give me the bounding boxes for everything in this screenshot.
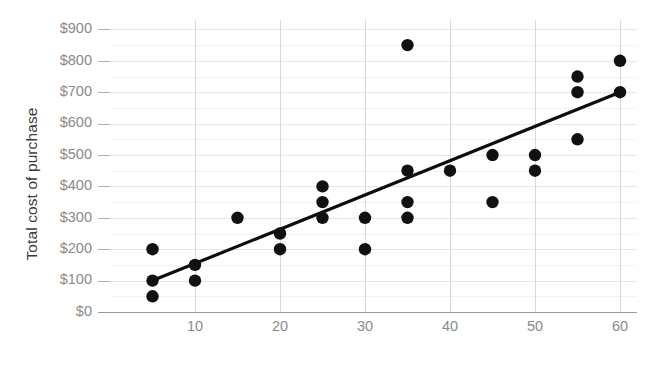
x-tick-label: 20	[272, 318, 288, 334]
data-point	[316, 212, 328, 224]
data-point	[316, 180, 328, 192]
data-point	[231, 212, 243, 224]
data-point	[359, 243, 371, 255]
data-point	[571, 133, 583, 145]
x-tick-label: 40	[442, 318, 458, 334]
data-point	[529, 149, 541, 161]
y-tick-label: $700	[60, 83, 92, 99]
y-tick-marks	[98, 30, 110, 282]
y-tick-label: $600	[60, 114, 92, 130]
data-point	[401, 212, 413, 224]
data-point	[486, 196, 498, 208]
data-point	[146, 290, 158, 302]
data-point	[571, 70, 583, 82]
data-point	[401, 165, 413, 177]
y-tick-label: $200	[60, 240, 92, 256]
data-point	[146, 243, 158, 255]
y-tick-label: $0	[76, 303, 92, 319]
plot-svg: $0$100$200$300$400$500$600$700$800$900 1…	[0, 0, 647, 368]
data-point	[401, 39, 413, 51]
y-tick-label: $400	[60, 177, 92, 193]
data-point	[189, 274, 201, 286]
data-point	[529, 165, 541, 177]
data-point	[486, 149, 498, 161]
x-tick-label: 60	[612, 318, 628, 334]
y-tick-labels: $0$100$200$300$400$500$600$700$800$900	[60, 20, 92, 319]
y-tick-label: $300	[60, 209, 92, 225]
y-tick-label: $100	[60, 271, 92, 287]
horizontal-gridlines	[110, 30, 637, 297]
x-tick-label: 10	[187, 318, 203, 334]
data-points	[146, 39, 626, 303]
data-point	[189, 259, 201, 271]
data-point	[274, 243, 286, 255]
scatter-chart: Total cost of purchase $0$100$200$300$40…	[0, 0, 647, 368]
data-point	[614, 86, 626, 98]
y-tick-label: $800	[60, 52, 92, 68]
y-tick-label: $500	[60, 146, 92, 162]
data-point	[316, 196, 328, 208]
data-point	[146, 274, 158, 286]
data-point	[571, 86, 583, 98]
data-point	[274, 227, 286, 239]
plot-area: $0$100$200$300$400$500$600$700$800$900 1…	[0, 0, 647, 368]
y-tick-label: $900	[60, 20, 92, 36]
data-point	[614, 55, 626, 67]
data-point	[359, 212, 371, 224]
x-tick-label: 50	[527, 318, 543, 334]
data-point	[444, 165, 456, 177]
data-point	[401, 196, 413, 208]
x-tick-label: 30	[357, 318, 373, 334]
x-tick-labels: 102030405060	[187, 318, 628, 334]
